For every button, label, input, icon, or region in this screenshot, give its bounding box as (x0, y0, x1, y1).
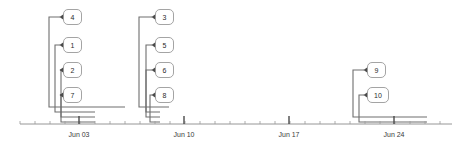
node-label: 2 (71, 67, 75, 74)
node-3[interactable]: 3 (152, 10, 174, 25)
node-2[interactable]: 2 (60, 63, 82, 78)
node-label: 1 (71, 42, 75, 49)
node-label: 8 (163, 92, 167, 99)
branch-path-9 (353, 70, 427, 117)
node-1[interactable]: 1 (60, 38, 82, 53)
node-6[interactable]: 6 (152, 63, 174, 78)
node-4[interactable]: 4 (60, 10, 82, 25)
node-5[interactable]: 5 (152, 38, 174, 53)
node-layer: 41273568910 (60, 10, 389, 103)
chart-canvas: Jun 03Jun 10Jun 17Jun 24 41273568910 (0, 0, 470, 144)
axis-tick-label: Jun 03 (68, 131, 89, 138)
node-8[interactable]: 8 (152, 88, 174, 103)
axis-tick-label: Jun 24 (383, 131, 404, 138)
node-10[interactable]: 10 (364, 88, 389, 103)
node-label: 9 (375, 67, 379, 74)
axis-tick-label: Jun 17 (278, 131, 299, 138)
node-label: 4 (71, 14, 75, 21)
node-label: 3 (163, 14, 167, 21)
node-9[interactable]: 9 (364, 63, 386, 78)
node-7[interactable]: 7 (60, 88, 82, 103)
node-label: 10 (374, 92, 382, 99)
node-label: 5 (163, 42, 167, 49)
node-label: 7 (71, 92, 75, 99)
branch-path-4 (49, 17, 125, 107)
axis-layer: Jun 03Jun 10Jun 17Jun 24 (20, 116, 452, 138)
axis-tick-label: Jun 10 (173, 131, 194, 138)
node-label: 6 (163, 67, 167, 74)
timeline-dendrogram-chart: Jun 03Jun 10Jun 17Jun 24 41273568910 (0, 0, 470, 144)
